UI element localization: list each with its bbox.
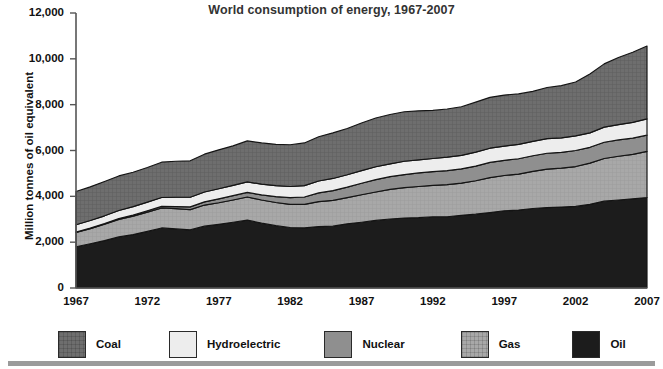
- stacked-area-layers: [76, 46, 647, 288]
- y-tick-label: 0: [18, 281, 64, 293]
- legend-item-gas[interactable]: Gas: [461, 331, 521, 358]
- x-tick-label: 1992: [407, 295, 459, 307]
- legend-item-nuclear[interactable]: Nuclear: [324, 331, 404, 358]
- legend-label: Hydroelectric: [207, 338, 281, 350]
- legend-label: Oil: [610, 338, 625, 350]
- y-tick-label: 2,000: [18, 235, 64, 247]
- legend-swatch-oil: [572, 331, 600, 358]
- x-tick-label: 1972: [121, 295, 173, 307]
- legend-item-hydroelectric[interactable]: Hydroelectric: [169, 331, 281, 358]
- x-tick-label: 2002: [550, 295, 602, 307]
- chart-figure: World consumption of energy, 1967-2007 M…: [0, 0, 663, 369]
- legend-label: Gas: [499, 338, 521, 350]
- legend-swatch-coal: [58, 331, 86, 358]
- y-tick-label: 4,000: [18, 189, 64, 201]
- y-axis-ticks: [70, 13, 76, 288]
- y-tick-label: 8,000: [18, 98, 64, 110]
- chart-legend: CoalHydroelectricNuclearGasOil: [0, 326, 663, 362]
- legend-swatch-nuclear: [324, 331, 352, 358]
- bottom-divider: [8, 361, 655, 366]
- legend-item-coal[interactable]: Coal: [58, 331, 121, 358]
- y-tick-label: 12,000: [18, 6, 64, 18]
- legend-label: Coal: [96, 338, 121, 350]
- x-tick-label: 1987: [336, 295, 388, 307]
- x-tick-label: 1982: [264, 295, 316, 307]
- y-tick-label: 6,000: [18, 144, 64, 156]
- legend-item-oil[interactable]: Oil: [572, 331, 625, 358]
- x-tick-label: 2007: [621, 295, 663, 307]
- y-tick-label: 10,000: [18, 52, 64, 64]
- x-tick-label: 1967: [50, 295, 102, 307]
- legend-swatch-gas: [461, 331, 489, 358]
- x-tick-label: 1977: [193, 295, 245, 307]
- legend-swatch-hydroelectric: [169, 331, 197, 358]
- legend-label: Nuclear: [362, 338, 404, 350]
- plot-area: [0, 0, 663, 369]
- x-tick-label: 1997: [478, 295, 530, 307]
